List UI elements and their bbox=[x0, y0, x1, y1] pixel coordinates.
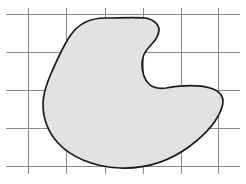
figure-container bbox=[0, 0, 246, 184]
region-grid-figure bbox=[0, 0, 246, 184]
